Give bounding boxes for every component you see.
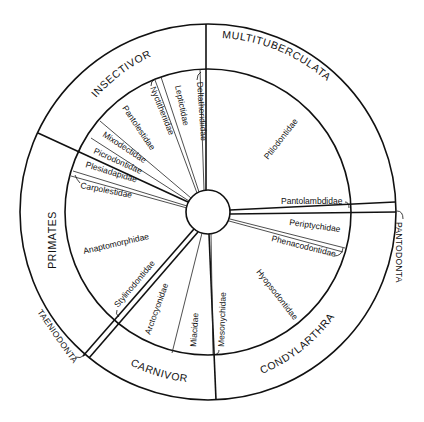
arrow-carpolestidae-icon [75, 175, 80, 183]
order-label-primates: PRIMATES [46, 211, 58, 269]
family-label-mesonychidae: Mesonychidae [216, 292, 228, 347]
family-label-pantolambdidae: Pantolambdidae [281, 196, 343, 206]
order-label-pantodonta: PANTODONTA [394, 222, 404, 283]
family-label-periptychidae: Periptychidae [289, 217, 342, 234]
order-label-taeniodonta: TAENIODONTA [35, 307, 80, 365]
order-label-multituberculata: MULTITUBERCULATA [222, 28, 334, 83]
family-label-stylinodontidae: Stylinodontidae [112, 258, 157, 309]
family-label-ptilodontidae: Ptilodontidae [262, 116, 300, 161]
family-label-miacidae: Miacidae [188, 312, 200, 347]
arrow-pantodonta-icon [397, 211, 403, 219]
family-label-leptictidae: Leptictidae [173, 84, 191, 127]
divider-pantodonta-condylarthra [230, 212, 396, 214]
family-label-deltatheridiidae: Deltatheridiidae [195, 81, 209, 141]
taxonomy-wheel-diagram: MULTITUBERCULATA INSECTIVORA PRIMATES CA… [0, 0, 424, 422]
core-circle [186, 190, 230, 234]
order-label-condylarthra: CONDYLARTHRA [258, 310, 337, 375]
family-label-carpolestidae: Carpolestidae [80, 180, 134, 200]
family-label-anaptomorphidae: Anaptomorphidae [82, 231, 150, 256]
family-label-phenacodontidae: Phenacodontidae [271, 233, 338, 259]
family-label-arctocyonidae: Arctocyonidae [142, 281, 170, 335]
family-label-hyopsodontidae: Hyopsodontidae [254, 267, 300, 322]
order-label-insectivora: INSECTIVORA [0, 0, 153, 99]
